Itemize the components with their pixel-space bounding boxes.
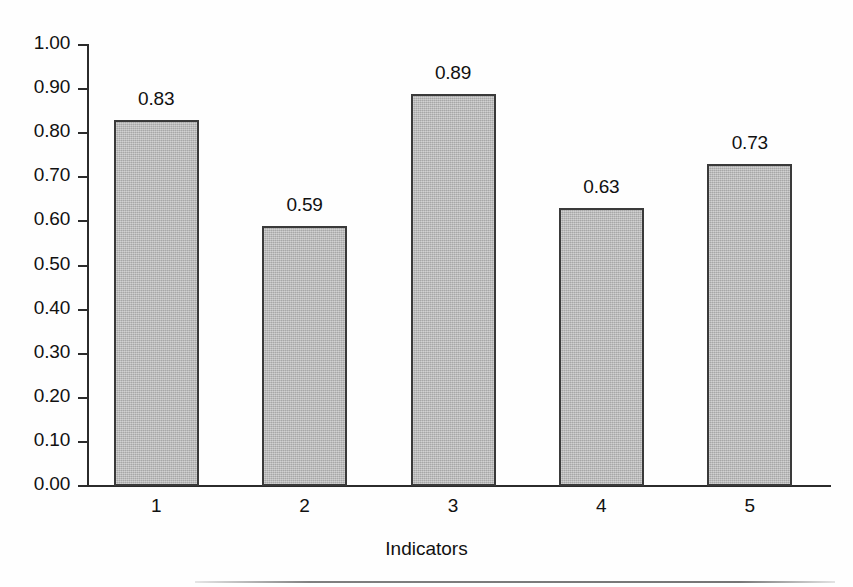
y-axis-tick — [78, 265, 88, 267]
y-axis-tick — [78, 132, 88, 134]
y-axis-tick-label: 0.80 — [0, 120, 70, 142]
bar-value-label: 0.63 — [583, 176, 619, 198]
y-axis-tick-label: 0.20 — [0, 385, 70, 407]
y-axis-tick — [78, 353, 88, 355]
x-axis-tick-label: 2 — [299, 495, 310, 517]
bar-value-label: 0.83 — [138, 88, 174, 110]
x-axis-title: Indicators — [0, 538, 853, 560]
plot-area: 0.830.590.890.630.73 — [88, 45, 830, 486]
y-axis-tick-label: 0.30 — [0, 341, 70, 363]
y-axis-tick-label: 0.70 — [0, 164, 70, 186]
y-axis-tick — [78, 220, 88, 222]
y-axis-tick-label: 0.10 — [0, 429, 70, 451]
bar — [114, 120, 199, 486]
y-axis-tick — [78, 88, 88, 90]
y-axis-tick-label: 0.50 — [0, 253, 70, 275]
bar — [559, 208, 644, 486]
y-axis-tick — [78, 44, 88, 46]
bar-value-label: 0.73 — [732, 132, 768, 154]
x-axis-tick-label: 1 — [151, 495, 162, 517]
y-axis-tick-label: 1.00 — [0, 32, 70, 54]
bar — [262, 226, 347, 486]
x-axis-tick-label: 4 — [596, 495, 607, 517]
bar-chart: 1.000.900.800.700.600.500.400.300.200.10… — [0, 0, 853, 587]
y-axis-tick-label: 0.40 — [0, 297, 70, 319]
y-axis-tick — [78, 176, 88, 178]
page-rule-divider — [195, 581, 835, 583]
y-axis-tick — [78, 309, 88, 311]
y-axis-tick-label: 0.90 — [0, 76, 70, 98]
y-axis-tick-label: 0.60 — [0, 208, 70, 230]
y-axis-tick — [78, 485, 88, 487]
bar — [411, 94, 496, 486]
x-axis-tick-label: 5 — [745, 495, 756, 517]
x-axis-tick-label: 3 — [448, 495, 459, 517]
y-axis-tick-label: 0.00 — [0, 473, 70, 495]
bar-value-label: 0.59 — [287, 194, 323, 216]
bar — [707, 164, 792, 486]
y-axis-tick — [78, 441, 88, 443]
bar-value-label: 0.89 — [435, 62, 471, 84]
y-axis-tick — [78, 397, 88, 399]
